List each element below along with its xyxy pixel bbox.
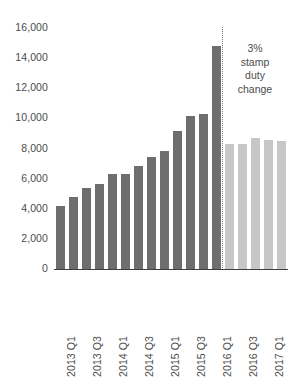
x-tick-label: 2014 Q3 [143,336,155,377]
bar [212,46,221,268]
bar [173,131,182,269]
bar [147,157,156,268]
bar [199,114,208,268]
x-tick-label: 2016 Q1 [221,336,233,377]
x-axis: 2013 Q12013 Q32014 Q12014 Q32015 Q12015 … [54,274,288,340]
x-tick-label: 2014 Q1 [117,336,129,377]
annotation-line: stamp [224,56,286,70]
x-tick-label: 2017 Q1 [273,336,285,377]
y-tick-label: 8,000 [21,142,48,154]
annotation-line: duty [224,69,286,83]
y-tick-label: 4,000 [21,202,48,214]
bar [225,144,234,268]
y-axis: 02,0004,0006,0008,00010,00012,00014,0001… [0,0,52,340]
y-tick-label: 12,000 [15,81,48,93]
y-tick-label: 2,000 [21,232,48,244]
x-tick-label: 2015 Q3 [195,336,207,377]
y-tick-label: 0 [42,262,48,274]
bar [69,197,78,269]
x-tick-label: 2016 Q3 [247,336,259,377]
bar [186,116,195,269]
bar [251,138,260,268]
bar [56,206,65,269]
x-tick-label: 2013 Q3 [91,336,103,377]
policy-change-divider [222,27,223,270]
y-tick-label: 16,000 [15,21,48,33]
bar [134,166,143,268]
stamp-duty-annotation: 3%stampdutychange [224,42,286,96]
x-tick-label: 2015 Q1 [169,336,181,377]
x-tick-label: 2013 Q1 [65,336,77,377]
y-tick-label: 6,000 [21,172,48,184]
bar [82,188,91,269]
bar [121,174,130,268]
bar [160,151,169,268]
bar [238,144,247,268]
bar [108,174,117,268]
bar [264,140,273,269]
annotation-line: 3% [224,42,286,56]
annotation-line: change [224,83,286,97]
x-axis-baseline [54,269,288,270]
bar [95,184,104,269]
bar [277,141,286,268]
y-tick-label: 10,000 [15,111,48,123]
y-tick-label: 14,000 [15,51,48,63]
